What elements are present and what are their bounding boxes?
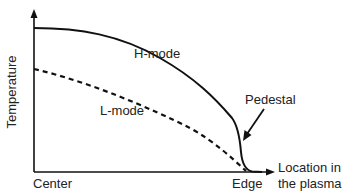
arrow-head-icon (243, 130, 252, 141)
h-mode-label: H-mode (134, 47, 180, 60)
l-mode-label: L-mode (100, 104, 144, 117)
x-axis-label-line2: the plasma (278, 177, 342, 190)
pedestal-arrow (243, 109, 264, 141)
y-axis-label: Temperature (4, 56, 19, 129)
x-axis-label-line1: Location in (278, 161, 341, 174)
x-tick-edge: Edge (232, 177, 262, 190)
y-axis-arrow-icon (31, 9, 38, 18)
x-tick-center: Center (33, 177, 72, 190)
pedestal-label: Pedestal (245, 93, 296, 106)
x-axis (34, 169, 275, 176)
x-axis-arrow-icon (266, 169, 275, 176)
l-mode-curve (34, 69, 246, 171)
y-axis (31, 9, 38, 172)
